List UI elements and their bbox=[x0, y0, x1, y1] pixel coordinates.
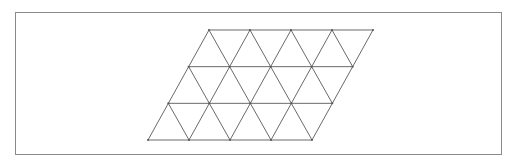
falling-grid-line bbox=[271, 67, 292, 104]
grid-vertex bbox=[331, 29, 333, 31]
rising-grid-line bbox=[250, 67, 270, 104]
falling-grid-line bbox=[230, 67, 251, 104]
grid-vertex bbox=[147, 139, 149, 141]
grid-vertex bbox=[229, 139, 231, 141]
rising-grid-line bbox=[271, 103, 291, 140]
rising-grid-line bbox=[189, 30, 209, 67]
grid-vertex bbox=[270, 139, 272, 141]
grid-vertex bbox=[372, 29, 374, 31]
rising-grid-line bbox=[230, 30, 250, 67]
grid-vertex bbox=[331, 102, 333, 104]
rising-grid-line bbox=[168, 67, 188, 104]
grid-vertex bbox=[249, 29, 251, 31]
grid-vertex bbox=[311, 66, 313, 68]
falling-grid-line bbox=[209, 103, 230, 140]
falling-grid-line bbox=[291, 30, 312, 67]
grid-vertex bbox=[311, 139, 313, 141]
rising-grid-line bbox=[189, 103, 209, 140]
rising-grid-line bbox=[230, 103, 250, 140]
grid-vertex bbox=[208, 102, 210, 104]
grid-vertex bbox=[188, 66, 190, 68]
rising-grid-line bbox=[148, 103, 168, 140]
triangle-grid bbox=[0, 0, 519, 166]
grid-vertex bbox=[249, 102, 251, 104]
rising-grid-line bbox=[291, 67, 311, 104]
falling-grid-line bbox=[291, 103, 312, 140]
falling-grid-line bbox=[189, 67, 210, 104]
grid-vertex bbox=[188, 139, 190, 141]
rising-grid-line bbox=[353, 30, 373, 67]
rising-grid-line bbox=[209, 67, 229, 104]
grid-vertex bbox=[290, 29, 292, 31]
rising-grid-line bbox=[271, 30, 291, 67]
falling-grid-line bbox=[312, 67, 333, 104]
grid-vertex bbox=[290, 102, 292, 104]
falling-grid-line bbox=[250, 30, 271, 67]
falling-grid-line bbox=[168, 103, 189, 140]
grid-vertex bbox=[167, 102, 169, 104]
grid-vertex bbox=[229, 66, 231, 68]
falling-grid-line bbox=[209, 30, 230, 67]
grid-vertex bbox=[270, 66, 272, 68]
rising-grid-line bbox=[312, 103, 332, 140]
rising-grid-line bbox=[312, 30, 332, 67]
grid-vertex bbox=[208, 29, 210, 31]
rising-grid-line bbox=[332, 67, 352, 104]
falling-grid-line bbox=[250, 103, 271, 140]
grid-vertex bbox=[352, 66, 354, 68]
falling-grid-line bbox=[332, 30, 353, 67]
